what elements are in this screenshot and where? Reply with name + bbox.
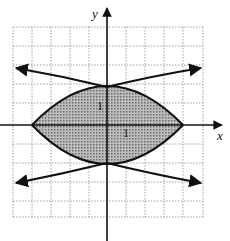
y-axis-label: y (92, 6, 98, 22)
graph-canvas (0, 0, 230, 241)
y-unit-marker: 1 (97, 99, 103, 114)
lower-arrow-left (16, 163, 107, 183)
x-unit-marker: 1 (123, 126, 129, 141)
x-axis-label: x (217, 128, 223, 144)
lower-arrow-right (107, 163, 201, 183)
